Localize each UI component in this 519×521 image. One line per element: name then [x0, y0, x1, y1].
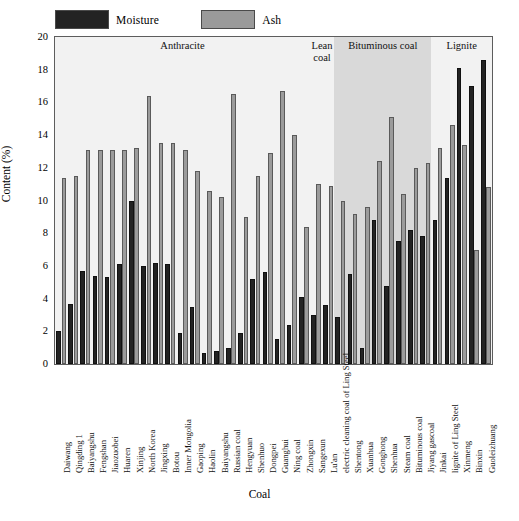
bar-ash — [122, 150, 127, 364]
bar-ash — [74, 176, 79, 364]
x-axis-label: Coal — [0, 488, 519, 500]
x-tick-label: Russian coal — [233, 429, 242, 473]
bar-moisture — [360, 348, 365, 364]
bar-group — [213, 37, 225, 364]
x-tick-label: electric cleaning coal of Ling Steel — [342, 353, 351, 473]
x-tick-label: Jinkai — [439, 452, 448, 473]
bar-group — [443, 37, 455, 364]
bar-group — [225, 37, 237, 364]
y-tick-label: 16 — [20, 96, 48, 107]
bar-moisture — [178, 333, 183, 364]
bar-group — [79, 37, 91, 364]
y-tick-label: 20 — [20, 31, 48, 42]
bar-moisture — [165, 264, 170, 364]
bar-group — [383, 37, 395, 364]
bar-moisture — [323, 305, 328, 364]
x-tick-label: Jiaozuobei — [111, 436, 120, 473]
bar-ash — [438, 148, 443, 364]
chart-legend: Moisture Ash — [55, 10, 317, 29]
bar-group — [55, 37, 67, 364]
bar-group — [419, 37, 431, 364]
bar-ash — [389, 117, 394, 364]
bar-ash — [134, 148, 139, 364]
bar-group — [189, 37, 201, 364]
bar-group — [152, 37, 164, 364]
x-axis-ticks: DaiwangQingding 1BaiyangshuFengshanJiaoz… — [54, 365, 491, 477]
legend-swatch-moisture — [55, 10, 109, 29]
bar-group — [237, 37, 249, 364]
bar-group — [334, 37, 346, 364]
x-tick-label: Huaren — [123, 448, 132, 473]
bar-group — [164, 37, 176, 364]
bar-ash — [219, 197, 224, 364]
bar-moisture — [105, 277, 110, 364]
x-tick-label: Bituminous coal — [415, 416, 424, 473]
y-tick-label: 18 — [20, 63, 48, 74]
x-tick-label: Xinmeng — [463, 441, 472, 473]
bar-group — [468, 37, 480, 364]
bar-moisture — [56, 331, 61, 364]
bar-group — [249, 37, 261, 364]
bar-group — [128, 37, 140, 364]
bar-ash — [86, 150, 91, 364]
bar-moisture — [117, 264, 122, 364]
legend-item-moisture: Moisture — [55, 10, 159, 29]
bar-group — [431, 37, 443, 364]
y-tick-label: 10 — [20, 194, 48, 205]
bar-ash — [353, 214, 358, 364]
x-tick-label: Daiwang — [63, 442, 72, 473]
bar-moisture — [238, 333, 243, 364]
y-tick-label: 8 — [20, 227, 48, 238]
bar-group — [91, 37, 103, 364]
bar-moisture — [80, 271, 85, 364]
bar-group — [274, 37, 286, 364]
bar-group — [201, 37, 213, 364]
bar-ash — [292, 135, 297, 364]
bar-ash — [195, 171, 200, 364]
x-tick-label: North Korea — [148, 430, 157, 473]
x-tick-label: Dongpei — [269, 443, 278, 473]
bar-moisture — [250, 279, 255, 364]
x-tick-label: Guanghui — [281, 439, 290, 473]
x-tick-label: Lu'an — [330, 454, 339, 473]
bar-moisture — [68, 304, 73, 364]
bar-chart: Moisture Ash Content (%) 024681012141618… — [0, 0, 519, 521]
bar-group — [310, 37, 322, 364]
bar-moisture — [287, 325, 292, 364]
bar-moisture — [311, 315, 316, 364]
x-tick-label: Steam coal — [403, 435, 412, 473]
bar-ash — [244, 217, 249, 364]
bar-ash — [147, 96, 152, 364]
bar-ash — [474, 250, 479, 364]
x-tick-label: Shenhuo — [257, 443, 266, 473]
bar-moisture — [129, 201, 134, 365]
bar-group — [322, 37, 334, 364]
bar-ash — [462, 145, 467, 364]
bar-moisture — [190, 307, 195, 364]
x-tick-label: Haolin — [208, 450, 217, 473]
bar-group — [480, 37, 492, 364]
bar-group — [298, 37, 310, 364]
x-tick-label: Zhongxin — [306, 440, 315, 473]
bar-group — [67, 37, 79, 364]
y-tick-label: 6 — [20, 259, 48, 270]
bar-ash — [365, 207, 370, 364]
bar-ash — [426, 163, 431, 364]
x-tick-label: Inner Mongolia — [184, 419, 193, 473]
bar-moisture — [420, 236, 425, 364]
bar-moisture — [335, 317, 340, 364]
x-tick-label: Shenhua — [390, 443, 399, 473]
bar-moisture — [275, 339, 280, 364]
bar-ash — [280, 91, 285, 364]
bar-ash — [329, 186, 334, 364]
x-tick-label: Qingding 1 — [75, 434, 84, 473]
bar-moisture — [384, 286, 389, 364]
bar-moisture — [457, 68, 462, 364]
bar-moisture — [226, 348, 231, 364]
bar-moisture — [396, 241, 401, 364]
x-tick-label: Gaoping — [196, 443, 205, 473]
bar-group — [395, 37, 407, 364]
x-tick-label: Xuanhua — [366, 442, 375, 473]
x-tick-label: Baiyangshu — [87, 432, 96, 473]
bar-moisture — [153, 263, 158, 364]
